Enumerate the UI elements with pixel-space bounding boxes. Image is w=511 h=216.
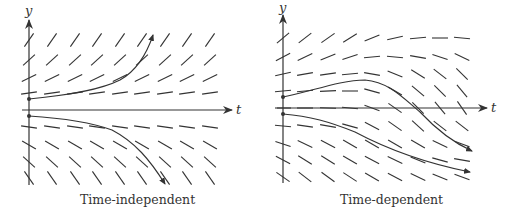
slope-segment <box>455 54 470 61</box>
upper-solution-curve <box>29 35 153 99</box>
slope-segment <box>180 141 194 149</box>
caption-time-dependent: Time-dependent <box>340 192 443 207</box>
slope-segment <box>115 33 124 46</box>
slope-segment <box>342 55 357 60</box>
time-dependent-panel: y t <box>275 0 497 183</box>
initial-condition-point <box>27 114 31 118</box>
slope-segment <box>135 75 149 82</box>
slope-field-left <box>21 33 218 184</box>
slope-segment <box>113 141 127 149</box>
slope-segment <box>205 33 214 46</box>
time-independent-panel: y t <box>21 3 242 185</box>
slope-segment <box>182 33 191 46</box>
slope-segment <box>434 69 447 79</box>
slope-segment <box>137 171 146 184</box>
initial-condition-point <box>27 97 31 101</box>
slope-segment <box>67 126 83 128</box>
slope-segment <box>46 157 58 168</box>
slope-segment <box>297 73 313 76</box>
slope-segment <box>364 56 380 57</box>
slope-segment <box>365 140 379 148</box>
slope-segment <box>388 157 403 164</box>
t-axis-label-right: t <box>491 100 497 115</box>
slope-segment <box>365 35 380 41</box>
slope-segment <box>454 37 470 38</box>
slope-segment <box>412 121 424 132</box>
slope-segment <box>320 125 336 128</box>
slope-segment <box>112 126 128 128</box>
slope-segment <box>89 92 105 94</box>
slope-segment <box>45 141 59 149</box>
slope-segment <box>90 75 104 82</box>
slope-segment <box>134 92 150 94</box>
slope-segment <box>342 73 358 74</box>
y-axis-label-left: y <box>24 3 33 18</box>
slope-segment <box>181 157 193 168</box>
slope-segment <box>44 92 60 94</box>
slope-segment <box>410 56 426 59</box>
slope-segment <box>179 126 195 128</box>
slope-segment <box>203 141 217 149</box>
slope-segment <box>365 156 379 164</box>
slope-segment <box>454 159 470 162</box>
slope-segment <box>434 121 447 131</box>
slope-segment <box>412 86 424 96</box>
slope-segment <box>179 92 195 94</box>
slope-segment <box>45 75 59 82</box>
slope-segment <box>411 70 425 78</box>
slope-segment <box>299 172 312 182</box>
slope-segment <box>387 36 403 39</box>
slope-segment <box>47 33 56 46</box>
slope-segment <box>137 33 146 46</box>
slope-segment <box>432 158 447 162</box>
slope-segment <box>320 73 336 75</box>
slope-segment <box>68 141 82 149</box>
slope-segment <box>115 171 124 184</box>
slope-segment <box>112 92 128 94</box>
slope-segment <box>157 126 173 128</box>
slope-segment <box>321 140 335 148</box>
slope-segment <box>157 92 173 94</box>
slope-segment <box>455 174 470 179</box>
slope-segment <box>182 171 191 184</box>
slope-segment <box>91 157 103 168</box>
slope-segment <box>70 33 79 46</box>
slope-segment <box>202 92 218 94</box>
slope-segment <box>70 171 79 184</box>
slope-segment <box>205 171 214 184</box>
caption-time-independent: Time-independent <box>80 192 195 207</box>
slope-segment <box>158 75 172 82</box>
slope-segment <box>158 141 172 149</box>
slope-segment <box>364 73 380 76</box>
slope-segment <box>299 33 312 43</box>
slope-segment <box>90 141 104 149</box>
slope-segment <box>343 173 356 182</box>
slope-segment <box>297 125 313 127</box>
slope-segment <box>159 55 171 66</box>
slope-segment <box>298 54 313 61</box>
slope-segment <box>134 126 150 128</box>
slope-segment <box>457 85 467 97</box>
slope-segment <box>114 157 126 168</box>
slope-segment <box>388 140 402 148</box>
slope-segment <box>411 140 425 148</box>
slope-segment <box>321 54 336 60</box>
slope-segment <box>456 121 469 131</box>
slope-segment <box>433 174 448 180</box>
slope-segment <box>92 171 101 184</box>
slope-segment <box>365 122 379 130</box>
slope-segment <box>298 141 313 148</box>
t-axis-label-left: t <box>236 102 242 117</box>
upper-solution-curve <box>283 80 472 151</box>
slope-segment <box>343 140 357 148</box>
slope-segment <box>160 33 169 46</box>
slope-segment <box>114 55 126 66</box>
slope-segment <box>44 126 60 128</box>
slope-segment <box>365 173 379 181</box>
slope-segment <box>388 71 403 77</box>
initial-condition-point <box>281 95 285 99</box>
slope-segment <box>92 33 101 46</box>
slope-segment <box>47 171 56 184</box>
slope-segment <box>456 68 467 79</box>
slope-segment <box>411 174 426 181</box>
